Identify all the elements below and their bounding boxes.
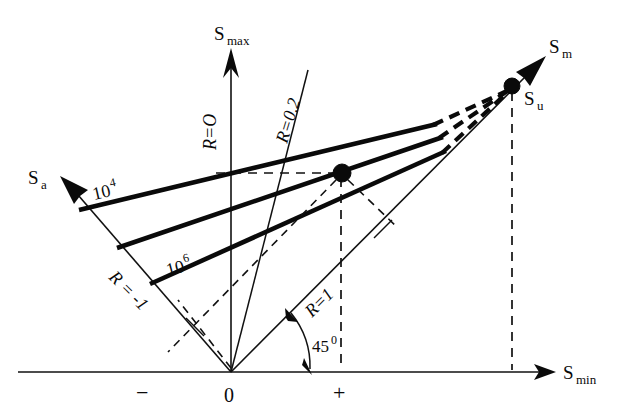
origin-label: 0: [224, 384, 234, 406]
s-u-label-subscript: u: [537, 98, 544, 113]
s-u-label: S u: [524, 88, 544, 113]
negative-sign-label: −: [136, 380, 148, 405]
s-min-label: S min: [563, 362, 597, 387]
s-m-axis-line: [231, 70, 532, 372]
r-one-label: R=1: [300, 284, 338, 322]
curve-10e6: [117, 90, 509, 248]
curve-10e6-solid: [117, 137, 443, 248]
fatigue-diagram-figure: S max S min S a S m S u R=O R=0.2 R = -1: [0, 0, 627, 415]
s-a-label-subscript: a: [41, 177, 47, 192]
ultimate-strength-point: [504, 78, 520, 94]
s-m-label-subscript: m: [562, 46, 572, 61]
s-max-label-main: S: [214, 23, 225, 44]
s-a-axis: [60, 176, 231, 372]
angle-45-label: 45 0: [312, 333, 337, 356]
s-min-axis: [18, 364, 556, 380]
s-min-label-main: S: [563, 362, 574, 383]
tick-r-one: [374, 220, 392, 238]
angle-45-arrow-upper: [285, 308, 298, 322]
angle-45-indicator: [285, 308, 312, 375]
s-a-arrowhead: [60, 176, 88, 204]
curve-10e6-dashed-extension: [439, 90, 509, 138]
s-a-label: S a: [28, 167, 47, 192]
s-u-label-main: S: [524, 88, 535, 109]
s-m-label: S m: [549, 36, 572, 61]
s-min-label-subscript: min: [576, 372, 597, 387]
positive-sign-label: +: [333, 380, 345, 405]
operating-point: [333, 164, 351, 182]
curve-10e4-dashed-extension: [433, 90, 509, 125]
angle-45-label-degree: 0: [331, 333, 337, 347]
s-m-label-main: S: [549, 36, 560, 57]
s-m-axis: [231, 56, 546, 372]
curve-10e8-dashed-extension: [442, 91, 509, 153]
s-max-label: S max: [214, 23, 250, 48]
curve-10e8-solid: [150, 151, 446, 284]
s-a-label-main: S: [28, 167, 39, 188]
s-max-label-subscript: max: [227, 33, 250, 48]
r-0point2-label: R=0.2: [271, 96, 304, 146]
haigh-diagram-canvas: S max S min S a S m S u R=O R=0.2 R = -1: [0, 0, 627, 415]
r-zero-label: R=O: [200, 114, 220, 151]
angle-45-label-value: 45: [312, 337, 329, 356]
curve-10e4-solid: [79, 124, 437, 210]
